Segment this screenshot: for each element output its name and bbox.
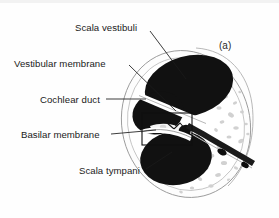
- panel-letter: (a): [219, 40, 231, 51]
- label-scala-tympani: Scala tympani: [79, 165, 140, 176]
- label-cochlear-duct: Cochlear duct: [40, 94, 100, 105]
- label-scala-vestibuli: Scala vestibuli: [75, 22, 137, 33]
- label-basilar-membrane: Basilar membrane: [21, 129, 100, 140]
- cochlea-anatomy-illustration: [0, 0, 279, 218]
- cochlea-cross-section-figure: Scala vestibuli Vestibular membrane Coch…: [0, 0, 279, 218]
- label-vestibular-membrane: Vestibular membrane: [14, 58, 106, 69]
